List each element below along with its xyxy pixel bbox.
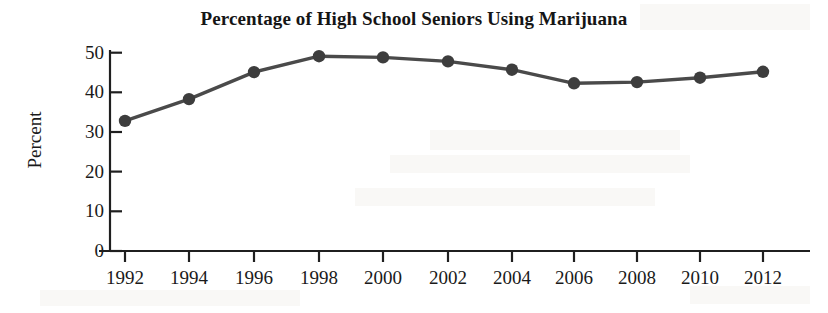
data-point-2006 bbox=[568, 77, 580, 89]
data-point-2012 bbox=[757, 66, 769, 78]
y-tick-marks bbox=[110, 53, 122, 251]
data-point-2010 bbox=[694, 72, 706, 84]
x-tick-marks bbox=[125, 251, 763, 262]
chart-figure: Percentage of High School Seniors Using … bbox=[0, 0, 828, 313]
data-point-1992 bbox=[119, 115, 131, 127]
data-point-2002 bbox=[442, 55, 454, 67]
data-point-2008 bbox=[631, 76, 643, 88]
data-point-1998 bbox=[313, 50, 325, 62]
data-point-2004 bbox=[506, 63, 518, 75]
plot-area: Percent 50 40 30 20 10 0 1992 1994 1996 … bbox=[0, 0, 828, 313]
data-point-2000 bbox=[377, 51, 389, 63]
data-point-1996 bbox=[248, 66, 260, 78]
chart-canvas bbox=[0, 0, 828, 313]
data-point-1994 bbox=[183, 93, 195, 105]
